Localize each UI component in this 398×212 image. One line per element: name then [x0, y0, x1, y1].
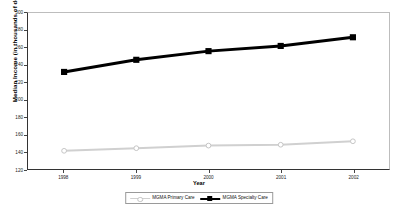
y-tick-label: 200: [15, 97, 23, 102]
data-point-marker: [61, 69, 67, 75]
data-point-marker: [62, 148, 67, 153]
x-axis-title: Year: [0, 180, 398, 186]
x-tick-mark: [209, 170, 210, 173]
chart-legend: MGMA Primary CareMGMA Specialty Care: [125, 192, 273, 204]
legend-swatch-icon: [201, 195, 221, 202]
legend-entry[interactable]: MGMA Primary Care: [130, 195, 194, 202]
x-tick-mark: [63, 170, 64, 173]
legend-label: MGMA Primary Care: [152, 195, 194, 201]
series-specialty-care: [61, 34, 356, 75]
y-tick-label: 180: [15, 115, 23, 120]
data-point-marker: [278, 142, 283, 147]
x-tick-mark: [354, 170, 355, 173]
legend-entry[interactable]: MGMA Specialty Care: [201, 195, 268, 202]
plot-area: [27, 12, 390, 170]
y-tick-label: 140: [15, 150, 23, 155]
y-tick-label: 240: [15, 62, 23, 67]
y-tick-label: 260: [15, 45, 23, 50]
series-layer: [28, 13, 389, 169]
legend-label: MGMA Specialty Care: [223, 195, 268, 201]
series-line: [64, 37, 353, 72]
data-point-marker: [134, 146, 139, 151]
x-tick-mark: [281, 170, 282, 173]
data-point-marker: [205, 48, 211, 54]
series-primary-care: [62, 139, 356, 153]
y-tick-label: 120: [15, 168, 23, 173]
y-tick-label: 280: [15, 27, 23, 32]
data-point-marker: [278, 43, 284, 49]
y-tick-label: 220: [15, 80, 23, 85]
data-point-marker: [206, 143, 211, 148]
data-point-marker: [350, 34, 356, 40]
legend-swatch-icon: [130, 195, 150, 202]
y-tick-label: 300: [15, 10, 23, 15]
data-point-marker: [351, 139, 356, 144]
x-tick-mark: [136, 170, 137, 173]
data-point-marker: [133, 57, 139, 63]
y-tick-label: 160: [15, 132, 23, 137]
chart-container: Median Income (in thousands of dollars) …: [0, 0, 398, 212]
